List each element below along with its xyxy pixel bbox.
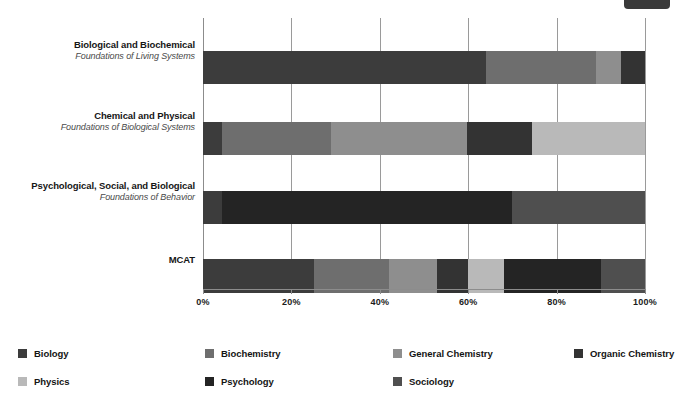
category-label: Chemical and PhysicalFoundations of Biol… xyxy=(5,110,195,133)
x-axis-line xyxy=(203,289,646,290)
legend-item-physics[interactable]: Physics xyxy=(18,376,70,387)
legend-label: Biology xyxy=(34,348,68,359)
bar-segment-biology xyxy=(203,259,314,293)
x-tick-mark-100 xyxy=(645,289,646,294)
x-tick-label-100: 100% xyxy=(633,297,657,307)
category-label-secondary: Foundations of Behavior xyxy=(5,192,195,203)
bar-row xyxy=(203,259,645,293)
bar-segment-psychology xyxy=(504,259,601,293)
stacked-bar xyxy=(203,259,645,293)
legend-label: Biochemistry xyxy=(221,348,281,359)
x-tick-label-0: 0% xyxy=(196,297,209,307)
x-tick-mark-60 xyxy=(468,289,469,294)
legend-item-biology[interactable]: Biology xyxy=(18,348,68,359)
category-label-primary: Biological and Biochemical xyxy=(5,39,195,51)
bar-segment-psychology xyxy=(222,191,512,224)
legend-swatch-icon xyxy=(205,377,214,386)
legend-item-general-chemistry[interactable]: General Chemistry xyxy=(393,348,493,359)
category-label-secondary: Foundations of Biological Systems xyxy=(5,122,195,133)
category-label-primary: Psychological, Social, and Biological xyxy=(5,180,195,192)
x-tick-mark-20 xyxy=(291,289,292,294)
bar-segment-biochemistry xyxy=(314,259,389,293)
bar-segment-organic-chemistry xyxy=(437,259,468,293)
chart-page: Biological and BiochemicalFoundations of… xyxy=(0,0,676,413)
legend-swatch-icon xyxy=(205,349,214,358)
x-tick-label-40: 40% xyxy=(370,297,389,307)
legend-swatch-icon xyxy=(574,349,583,358)
legend-swatch-icon xyxy=(18,349,27,358)
x-tick-mark-40 xyxy=(380,289,381,294)
bar-segment-sociology xyxy=(512,191,645,224)
legend-label: Physics xyxy=(34,376,70,387)
x-tick-mark-0 xyxy=(203,289,204,294)
x-tick-label-20: 20% xyxy=(282,297,301,307)
legend-label: Sociology xyxy=(409,376,454,387)
legend-label: General Chemistry xyxy=(409,348,493,359)
bar-segment-general-chemistry xyxy=(389,259,438,293)
bar-segment-biology xyxy=(203,122,222,155)
bar-segment-physics xyxy=(468,259,503,293)
bar-segment-general-chemistry xyxy=(596,51,620,84)
bar-segment-sociology xyxy=(601,259,645,293)
bar-segment-physics xyxy=(532,122,645,155)
gridline-100 xyxy=(645,18,646,290)
bar-row xyxy=(203,51,645,84)
bar-row xyxy=(203,191,645,224)
category-label-secondary: Foundations of Living Systems xyxy=(5,51,195,62)
legend-item-organic-chemistry[interactable]: Organic Chemistry xyxy=(574,348,674,359)
legend-item-biochemistry[interactable]: Biochemistry xyxy=(205,348,281,359)
bar-segment-organic-chemistry xyxy=(621,51,645,84)
category-label-primary: MCAT xyxy=(5,254,195,266)
legend-item-sociology[interactable]: Sociology xyxy=(393,376,454,387)
plot-area xyxy=(203,18,645,290)
bar-row xyxy=(203,122,645,155)
legend-swatch-icon xyxy=(393,377,402,386)
stacked-bar xyxy=(203,191,645,224)
x-tick-label-60: 60% xyxy=(459,297,478,307)
bar-segment-biology xyxy=(203,51,486,84)
category-label: Psychological, Social, and BiologicalFou… xyxy=(5,180,195,203)
legend-label: Organic Chemistry xyxy=(590,348,674,359)
bar-segment-general-chemistry xyxy=(331,122,467,155)
stacked-bar xyxy=(203,122,645,155)
category-label-primary: Chemical and Physical xyxy=(5,110,195,122)
legend-label: Psychology xyxy=(221,376,274,387)
bar-segment-biochemistry xyxy=(222,122,331,155)
page-corner-artifact xyxy=(624,0,670,9)
legend-swatch-icon xyxy=(18,377,27,386)
bar-segment-biochemistry xyxy=(486,51,597,84)
stacked-bar xyxy=(203,51,645,84)
category-label: Biological and BiochemicalFoundations of… xyxy=(5,39,195,62)
bar-segment-biology xyxy=(203,191,222,224)
x-tick-mark-80 xyxy=(557,289,558,294)
x-tick-label-80: 80% xyxy=(547,297,566,307)
legend-swatch-icon xyxy=(393,349,402,358)
chart-legend: BiologyBiochemistryGeneral ChemistryOrga… xyxy=(0,348,676,408)
legend-item-psychology[interactable]: Psychology xyxy=(205,376,274,387)
category-label: MCAT xyxy=(5,254,195,266)
bar-segment-organic-chemistry xyxy=(467,122,532,155)
